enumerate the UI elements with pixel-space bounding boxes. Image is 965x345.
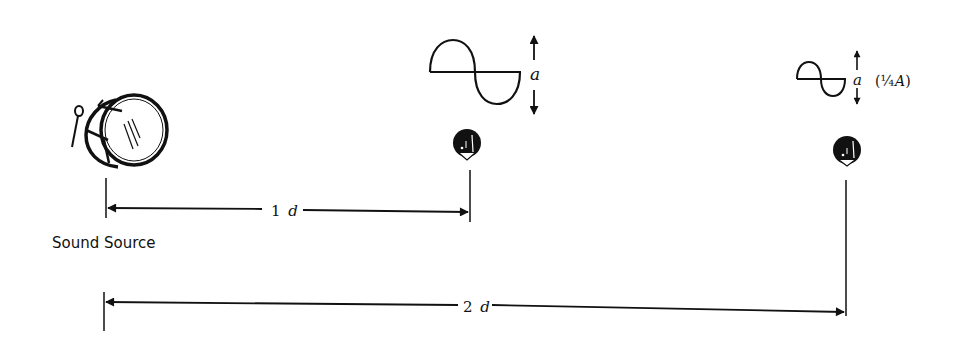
quarter-amplitude-note: (¼A) bbox=[875, 73, 911, 89]
drum-icon bbox=[72, 95, 167, 167]
amplitude-arrow-large: a bbox=[530, 36, 540, 114]
inverse-square-diagram: 1 d Sound Source a bbox=[0, 0, 965, 345]
distance-1d-dimension: 1 d bbox=[106, 170, 470, 222]
listener-1: a bbox=[430, 36, 540, 160]
listener-head-icon bbox=[453, 129, 481, 160]
amplitude-label-a: a bbox=[530, 64, 540, 84]
listener-head-icon bbox=[833, 136, 861, 166]
amplitude-label-a: a bbox=[853, 71, 862, 89]
amplitude-arrow-small: a bbox=[853, 51, 862, 104]
sine-wave-small-icon bbox=[797, 62, 846, 96]
distance-1d-label: 1 d bbox=[271, 202, 298, 220]
distance-2d-label: 2 d bbox=[463, 298, 490, 316]
sound-source-label: Sound Source bbox=[52, 234, 156, 252]
distance-2d-dimension: 2 d bbox=[104, 180, 846, 331]
listener-2: a (¼A) bbox=[797, 51, 911, 166]
sine-wave-large-icon bbox=[430, 40, 521, 104]
